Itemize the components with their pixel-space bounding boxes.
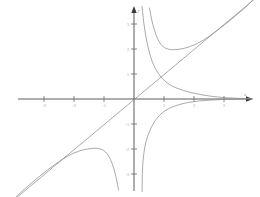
y-tick-label-1: 1 — [127, 72, 129, 77]
curve-y-equals-x-plus-one-over-x-negative-branch — [12, 148, 119, 197]
x-tick-label-2: 2 — [193, 103, 195, 108]
x-tick-label-3: 3 — [223, 103, 225, 108]
curve-y-equals-one-over-x-positive-branch — [142, 7, 252, 99]
y-tick-label--1: -1 — [126, 122, 130, 127]
x-axis-label: x — [243, 92, 247, 97]
y-tick-label-3: 3 — [127, 22, 129, 27]
y-tick-label--2: -2 — [126, 147, 130, 152]
curve-y-equals-one-over-x-negative-branch — [142, 99, 252, 192]
y-tick-label--3: -3 — [126, 172, 130, 177]
curves-group — [3, 0, 257, 197]
x-tick-label--1: -1 — [102, 103, 106, 108]
x-tick-label-1: 1 — [163, 103, 165, 108]
x-tick-label--2: -2 — [72, 103, 76, 108]
y-tick-label-2: 2 — [127, 47, 129, 52]
x-tick-label--3: -3 — [42, 103, 46, 108]
y-axis-label: y — [137, 8, 141, 13]
y-axis-arrowhead — [131, 6, 136, 13]
graph-figure: -3 -2 -1 1 2 3 3 2 1 -1 -2 -3 y x — [0, 0, 260, 197]
coordinate-plane-plot: -3 -2 -1 1 2 3 3 2 1 -1 -2 -3 y x — [0, 0, 260, 197]
